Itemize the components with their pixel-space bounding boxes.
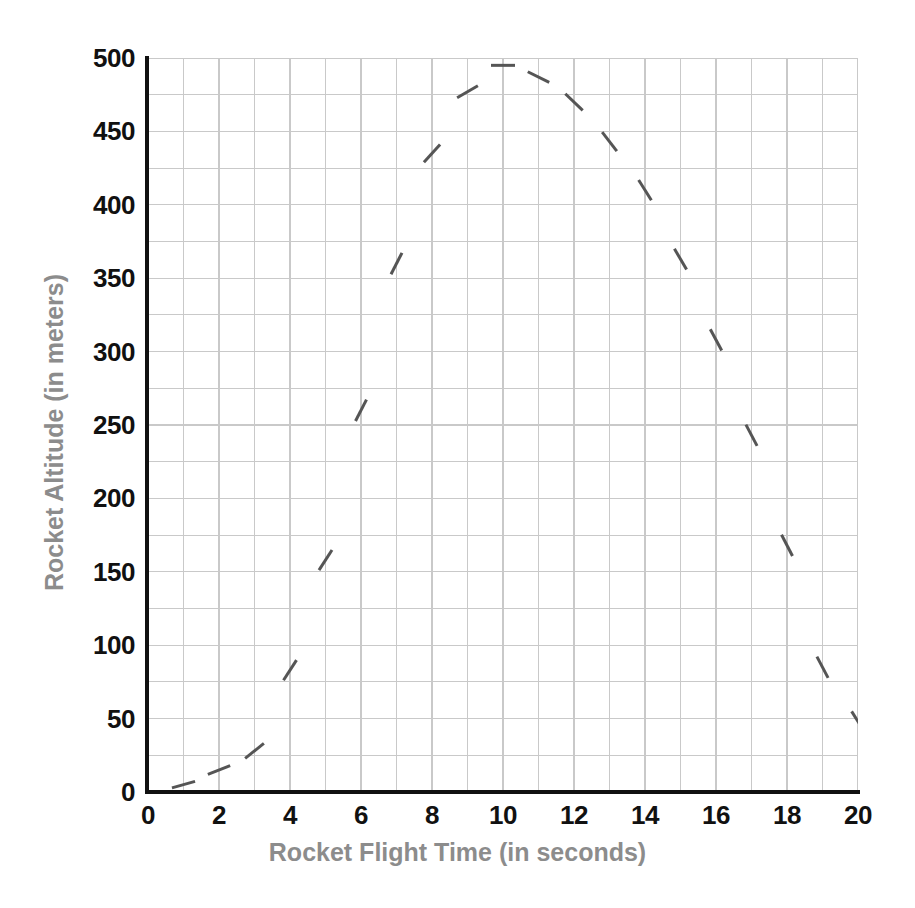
x-axis-tick-label: 4 [250,800,330,831]
x-axis-line [146,790,860,794]
x-axis-tick-label: 6 [321,800,401,831]
x-axis-tick-label: 12 [534,800,614,831]
x-axis-tick-label: 8 [392,800,472,831]
y-axis-line [145,56,149,794]
x-axis-tick-label: 20 [818,800,898,831]
x-axis-tick-labels: 02468101214161820 [0,800,915,840]
x-axis-title: Rocket Flight Time (in seconds) [0,838,915,867]
x-axis-tick-label: 14 [605,800,685,831]
data-series-marks [148,58,858,792]
y-axis-title: Rocket Altitude (in meters) [40,66,69,800]
x-axis-tick-label: 0 [108,800,188,831]
x-axis-tick-label: 16 [676,800,756,831]
x-axis-tick-label: 10 [463,800,543,831]
plot-area [148,58,858,792]
x-axis-tick-label: 18 [747,800,827,831]
x-axis-tick-label: 2 [179,800,259,831]
chart-figure: 050100150200250300350400450500 024681012… [0,0,915,908]
